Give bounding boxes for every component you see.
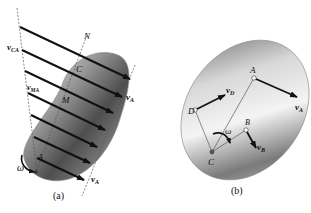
label-N: N xyxy=(83,31,91,41)
diagram-canvas: N C M A vCA vMA vA vA ω (a) A D B C ω xyxy=(0,0,311,213)
label-vCA: vCA xyxy=(7,42,19,53)
label-omega-a: ω xyxy=(17,162,24,173)
label-omega-b: ω xyxy=(225,126,231,136)
caption-b: (b) xyxy=(231,185,243,197)
label-B: B xyxy=(245,118,250,127)
point-A-b xyxy=(252,76,256,80)
label-vA-top: vA xyxy=(126,92,134,103)
label-A-a: A xyxy=(37,153,43,162)
label-vMA: vMA xyxy=(27,83,39,93)
label-D: D xyxy=(187,106,195,116)
point-A-a xyxy=(34,170,38,174)
label-M: M xyxy=(61,95,70,105)
figure-a: N C M A vCA vMA vA vA ω (a) xyxy=(7,8,135,202)
point-C-b xyxy=(210,150,215,155)
figure-b: A D B C ω vD vA vB (b) xyxy=(154,15,311,204)
label-A-b: A xyxy=(249,65,256,75)
caption-a: (a) xyxy=(53,190,64,202)
rigid-body-b xyxy=(154,15,311,204)
point-B xyxy=(244,128,248,132)
label-vA-bottom: vA xyxy=(91,174,99,185)
label-C-b: C xyxy=(208,157,215,167)
label-C-a: C xyxy=(76,64,83,74)
